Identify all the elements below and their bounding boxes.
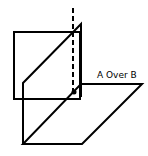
- diagram-canvas: A Over B: [0, 0, 148, 156]
- intersection-dot: [72, 90, 77, 95]
- horizontal-plane: [23, 84, 142, 144]
- diagram-label: A Over B: [97, 70, 137, 80]
